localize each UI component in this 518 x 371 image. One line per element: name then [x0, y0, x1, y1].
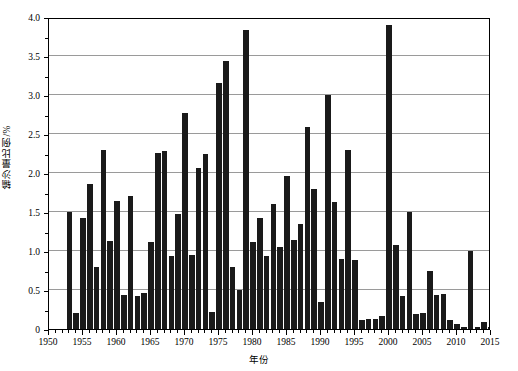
- bar: [175, 214, 180, 329]
- x-tick-mark-minor: [293, 330, 294, 333]
- bar: [148, 242, 153, 329]
- bar: [230, 267, 235, 329]
- bar: [277, 247, 282, 329]
- bar: [121, 295, 126, 329]
- bar: [393, 245, 398, 329]
- x-tick-mark-minor: [136, 330, 137, 333]
- y-tick-label: 2.0: [28, 169, 40, 179]
- x-tick-mark-minor: [306, 330, 307, 333]
- bar: [209, 312, 214, 329]
- x-tick-mark-minor: [415, 330, 416, 333]
- x-tick-mark: [388, 330, 389, 335]
- bar: [298, 224, 303, 329]
- bar: [325, 95, 330, 329]
- x-tick-label: 1985: [277, 337, 296, 347]
- x-tick-mark-minor: [449, 330, 450, 333]
- x-tick-mark-minor: [429, 330, 430, 333]
- bar: [284, 176, 289, 329]
- x-tick-mark-minor: [211, 330, 212, 333]
- bar: [481, 322, 486, 329]
- x-tick-mark-minor: [334, 330, 335, 333]
- bar: [366, 319, 371, 329]
- x-tick-label: 1990: [311, 337, 330, 347]
- x-tick-mark-minor: [266, 330, 267, 333]
- bar: [189, 255, 194, 329]
- x-tick-mark-minor: [232, 330, 233, 333]
- x-tick-mark-minor: [374, 330, 375, 333]
- x-tick-label: 2015: [481, 337, 500, 347]
- bar: [203, 154, 208, 329]
- x-tick-mark-minor: [483, 330, 484, 333]
- bar: [434, 295, 439, 329]
- x-tick-mark-minor: [402, 330, 403, 333]
- x-tick-mark-minor: [259, 330, 260, 333]
- x-tick-mark-minor: [123, 330, 124, 333]
- x-tick-mark: [456, 330, 457, 335]
- x-tick-mark-minor: [279, 330, 280, 333]
- x-tick-mark: [354, 330, 355, 335]
- x-tick-mark: [286, 330, 287, 335]
- x-tick-label: 1970: [175, 337, 194, 347]
- bar: [359, 320, 364, 329]
- bar: [101, 150, 106, 329]
- bar: [291, 240, 296, 329]
- y-tick-label: 3.0: [28, 91, 40, 101]
- bar: [407, 212, 412, 329]
- bar: [488, 327, 489, 329]
- x-tick-mark: [218, 330, 219, 335]
- x-axis-title: 年份: [0, 352, 518, 366]
- y-tick-label: 1.0: [28, 247, 40, 257]
- bar: [441, 294, 446, 329]
- x-tick-mark-minor: [368, 330, 369, 333]
- x-tick-mark-minor: [395, 330, 396, 333]
- bar: [128, 196, 133, 329]
- bar: [162, 151, 167, 329]
- x-tick-label: 2000: [379, 337, 398, 347]
- x-tick-label: 1975: [209, 337, 228, 347]
- x-tick-mark-minor: [68, 330, 69, 333]
- bar: [141, 293, 146, 329]
- x-tick-mark-minor: [157, 330, 158, 333]
- bar: [271, 204, 276, 329]
- bar: [80, 218, 85, 329]
- y-tick-label: 4.0: [28, 13, 40, 23]
- x-tick-label: 1960: [107, 337, 126, 347]
- bar: [257, 218, 262, 329]
- bar: [413, 314, 418, 329]
- bar: [311, 189, 316, 329]
- x-tick-label: 1980: [243, 337, 262, 347]
- bar: [114, 201, 119, 329]
- x-tick-mark-minor: [272, 330, 273, 333]
- bar: [475, 327, 480, 329]
- bar-series: [49, 19, 489, 329]
- x-tick-mark-minor: [164, 330, 165, 333]
- bar: [345, 150, 350, 329]
- x-tick-mark-minor: [62, 330, 63, 333]
- bar: [216, 83, 221, 329]
- y-tick-label: 1.5: [28, 208, 40, 218]
- x-tick-mark-minor: [463, 330, 464, 333]
- x-tick-mark: [82, 330, 83, 335]
- bar: [420, 313, 425, 329]
- bar: [135, 296, 140, 329]
- x-tick-mark: [184, 330, 185, 335]
- bar: [87, 184, 92, 329]
- bar: [447, 320, 452, 329]
- x-tick-mark-minor: [55, 330, 56, 333]
- x-tick-label: 1995: [345, 337, 364, 347]
- bar: [305, 127, 310, 329]
- x-tick-mark-minor: [340, 330, 341, 333]
- bar: [237, 290, 242, 329]
- bar: [182, 113, 187, 329]
- bar: [250, 242, 255, 329]
- bar: [94, 267, 99, 329]
- x-tick-mark-minor: [198, 330, 199, 333]
- bar: [264, 256, 269, 329]
- x-tick-mark-minor: [327, 330, 328, 333]
- bar: [400, 296, 405, 329]
- x-tick-mark-minor: [436, 330, 437, 333]
- x-tick-label: 1965: [141, 337, 160, 347]
- y-axis-title: 输沙量比例/%: [2, 125, 16, 189]
- x-tick-mark-minor: [238, 330, 239, 333]
- x-tick-mark-minor: [361, 330, 362, 333]
